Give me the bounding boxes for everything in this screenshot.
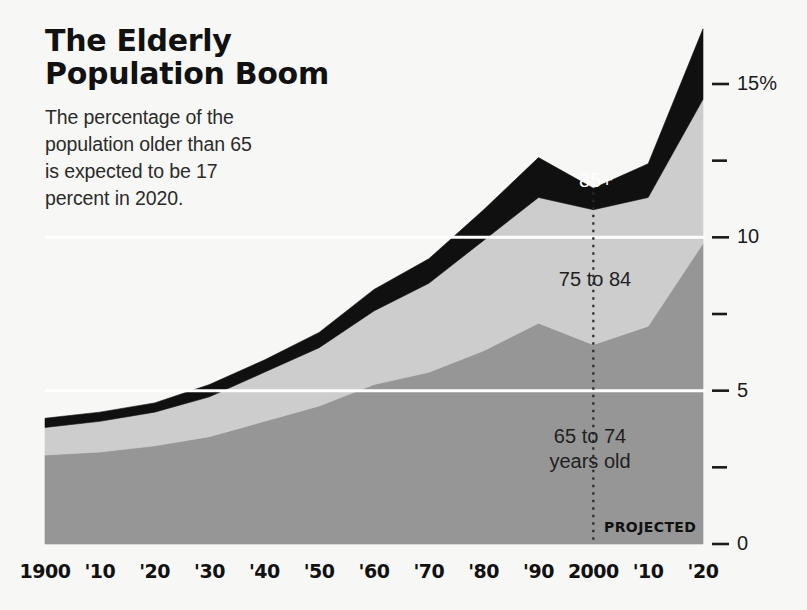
series-label-85plus: 85+ (556, 168, 636, 193)
page-title: The Elderly Population Boom (45, 24, 375, 90)
y-axis-label-15: 15% (737, 72, 777, 95)
chart-subtitle: The percentage of the population older t… (45, 104, 375, 212)
subtitle-line-4: percent in 2020. (45, 185, 375, 212)
series-label-65to74-line1: 65 to 74 (515, 424, 665, 449)
series-label-75to84: 75 to 84 (520, 267, 670, 292)
projected-label: PROJECTED (604, 519, 696, 535)
title-line-2: Population Boom (45, 57, 375, 90)
y-axis-label-5: 5 (737, 379, 748, 402)
subtitle-line-1: The percentage of the (45, 104, 375, 131)
axis-tick-group (712, 84, 729, 544)
series-label-65to74: 65 to 74 years old (515, 424, 665, 474)
title-line-1: The Elderly (45, 24, 375, 57)
x-axis-label-2020: '20 (663, 560, 743, 582)
series-label-65to74-line2: years old (515, 449, 665, 474)
y-axis-label-0: 0 (737, 532, 748, 555)
subtitle-line-2: population older than 65 (45, 131, 375, 158)
y-axis-label-10: 10 (737, 225, 759, 248)
title-block: The Elderly Population Boom The percenta… (45, 24, 375, 212)
subtitle-line-3: is expected to be 17 (45, 158, 375, 185)
infographic-canvas: The Elderly Population Boom The percenta… (0, 0, 807, 610)
